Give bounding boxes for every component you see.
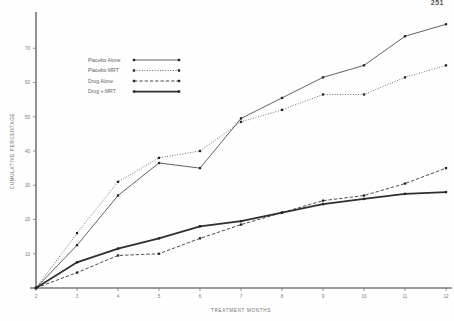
data-point <box>76 244 78 246</box>
x-tick-label: 6 <box>199 294 202 299</box>
data-point <box>363 64 365 66</box>
x-tick-label: 2 <box>35 294 38 299</box>
data-point <box>240 223 242 225</box>
x-tick-label: 11 <box>403 294 408 299</box>
x-tick-label: 4 <box>117 294 120 299</box>
data-point <box>199 237 201 239</box>
data-point <box>363 93 365 95</box>
x-tick-label: 12 <box>443 294 449 299</box>
data-point <box>404 76 406 78</box>
legend-sample-marker <box>133 69 135 71</box>
data-point <box>158 162 160 164</box>
legend-sample-marker <box>178 69 180 71</box>
y-axis-title: CUMULATIVE PERCENTAGE <box>10 113 15 190</box>
data-point <box>199 150 201 152</box>
x-tick-label: 8 <box>281 294 284 299</box>
data-point <box>322 76 324 78</box>
data-point <box>76 232 78 234</box>
legend-sample-marker <box>178 80 180 82</box>
y-tick-label: 60 <box>25 80 31 85</box>
x-tick-label: 3 <box>76 294 79 299</box>
data-point <box>199 167 201 169</box>
legend-sample-marker <box>178 90 180 92</box>
series-line-2 <box>36 168 446 288</box>
legend-sample-marker <box>133 90 135 92</box>
data-point <box>240 121 242 123</box>
data-point <box>445 167 447 169</box>
data-point <box>404 193 406 195</box>
legend-sample-marker <box>133 59 135 61</box>
x-axis-title: TREATMENT MONTHS <box>211 308 271 313</box>
series-line-3 <box>36 192 446 288</box>
data-point <box>117 247 119 249</box>
data-point <box>35 287 37 289</box>
data-point <box>158 237 160 239</box>
data-point <box>445 23 447 25</box>
data-point <box>76 261 78 263</box>
legend-label-3: Drug + MRT <box>88 88 116 94</box>
y-tick-label: 50 <box>25 115 31 120</box>
data-point <box>322 203 324 205</box>
legend-label-0: Placebo Alone <box>88 57 121 63</box>
data-point <box>445 64 447 66</box>
data-point <box>404 35 406 37</box>
x-tick-label: 10 <box>361 294 367 299</box>
legend-label-1: Placebo MRT <box>88 67 119 73</box>
chart-page: 251 1020304050607023456789101112TREATMEN… <box>0 0 454 321</box>
legend-sample-marker <box>133 80 135 82</box>
y-tick-label: 10 <box>25 252 31 257</box>
data-point <box>322 93 324 95</box>
y-tick-label: 20 <box>25 217 31 222</box>
data-point <box>199 225 201 227</box>
series-line-0 <box>36 24 446 288</box>
x-tick-label: 5 <box>158 294 161 299</box>
y-tick-label: 70 <box>25 46 31 51</box>
data-point <box>322 200 324 202</box>
data-point <box>240 220 242 222</box>
data-point <box>240 117 242 119</box>
data-point <box>363 194 365 196</box>
data-point <box>117 181 119 183</box>
data-point <box>158 253 160 255</box>
data-point <box>363 198 365 200</box>
x-tick-label: 9 <box>322 294 325 299</box>
data-point <box>158 157 160 159</box>
data-point <box>404 182 406 184</box>
legend-sample-marker <box>178 59 180 61</box>
data-point <box>117 194 119 196</box>
data-point <box>117 254 119 256</box>
data-point <box>445 191 447 193</box>
data-point <box>76 271 78 273</box>
data-point <box>281 212 283 214</box>
y-tick-label: 40 <box>25 149 31 154</box>
data-point <box>281 109 283 111</box>
y-tick-label: 30 <box>25 183 31 188</box>
line-chart: 1020304050607023456789101112TREATMENT MO… <box>0 0 454 321</box>
chart-svg: 1020304050607023456789101112TREATMENT MO… <box>0 0 454 321</box>
legend-label-2: Drug Alone <box>88 78 113 84</box>
x-tick-label: 7 <box>240 294 243 299</box>
data-point <box>281 97 283 99</box>
